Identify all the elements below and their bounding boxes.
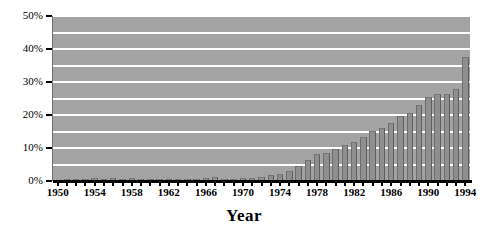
y-axis-tick: [46, 81, 52, 83]
bar: [369, 131, 375, 181]
bar: [444, 94, 450, 181]
y-axis-tick-label: 0%: [0, 175, 43, 186]
bar: [397, 116, 403, 181]
bar: [425, 97, 431, 181]
x-axis-tick-label: 1966: [186, 186, 226, 198]
y-axis-tick-label: 50%: [0, 10, 43, 21]
y-axis-tick: [46, 147, 52, 149]
x-axis-title: Year: [0, 206, 488, 226]
y-axis-tick: [46, 180, 52, 182]
x-axis-tick-label: 1990: [408, 186, 448, 198]
y-axis-tick-label: 10%: [0, 142, 43, 153]
bar: [453, 89, 459, 181]
bars-layer: [53, 16, 470, 181]
x-axis-tick-label: 1994: [445, 186, 485, 198]
bar: [416, 105, 422, 181]
x-axis-tick-label: 1962: [149, 186, 189, 198]
x-axis-tick-label: 1950: [38, 186, 78, 198]
bar: [434, 94, 440, 181]
x-axis-tick-label: 1978: [297, 186, 337, 198]
y-axis-tick: [46, 48, 52, 50]
bar: [388, 123, 394, 181]
x-axis-tick-label: 1970: [223, 186, 263, 198]
bar: [351, 142, 357, 181]
y-axis-tick-label: 40%: [0, 43, 43, 54]
y-axis-tick-label: 20%: [0, 109, 43, 120]
bar: [360, 137, 366, 181]
bar: [332, 149, 338, 181]
y-axis-tick-label: 30%: [0, 76, 43, 87]
bar: [305, 160, 311, 181]
x-axis-tick-label: 1974: [260, 186, 300, 198]
y-axis-line: [52, 16, 53, 181]
bar: [379, 128, 385, 181]
bar: [314, 154, 320, 181]
y-axis-tick: [46, 114, 52, 116]
bar: [407, 113, 413, 181]
x-axis-tick-label: 1954: [75, 186, 115, 198]
x-axis-tick-label: 1982: [334, 186, 374, 198]
bar: [462, 57, 468, 181]
bar: [342, 145, 348, 181]
bar: [295, 166, 301, 181]
x-axis-tick-label: 1958: [112, 186, 152, 198]
bar-chart: 0%10%20%30%40%50% 1950195419581962196619…: [0, 0, 488, 237]
bar: [323, 153, 329, 181]
x-axis-tick-label: 1986: [371, 186, 411, 198]
y-axis-tick: [46, 15, 52, 17]
